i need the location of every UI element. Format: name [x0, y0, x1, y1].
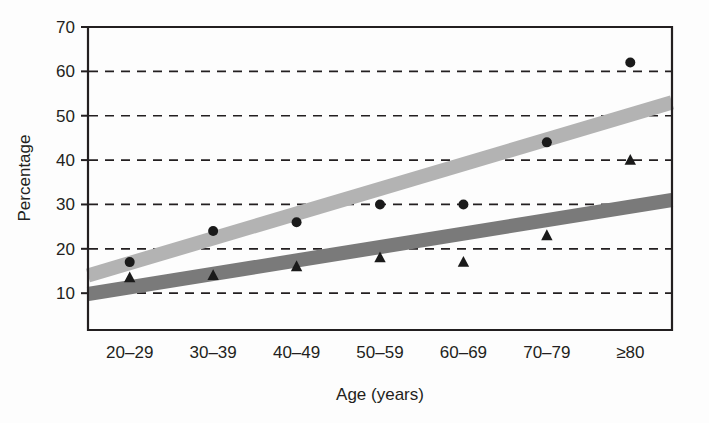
marker-circle-3 — [375, 199, 385, 209]
x-tick-label-6: ≥80 — [616, 343, 644, 362]
marker-circle-2 — [292, 217, 302, 227]
marker-circle-4 — [458, 199, 468, 209]
y-tick-label-40: 40 — [56, 151, 75, 170]
x-tick-label-4: 60–69 — [440, 343, 487, 362]
scatter-chart: 10203040506070 20–2930–3940–4950–5960–69… — [0, 0, 709, 423]
x-tick-label-2: 40–49 — [273, 343, 320, 362]
y-tick-label-50: 50 — [56, 107, 75, 126]
y-tick-label-10: 10 — [56, 284, 75, 303]
y-tick-label-30: 30 — [56, 195, 75, 214]
x-tick-label-5: 70–79 — [523, 343, 570, 362]
x-axis-title: Age (years) — [336, 385, 424, 404]
y-tick-label-60: 60 — [56, 62, 75, 81]
marker-circle-1 — [208, 226, 218, 236]
y-tick-label-70: 70 — [56, 18, 75, 37]
x-tick-label-0: 20–29 — [106, 343, 153, 362]
marker-circle-6 — [625, 57, 635, 67]
chart-page: 10203040506070 20–2930–3940–4950–5960–69… — [0, 0, 709, 423]
y-tick-label-20: 20 — [56, 240, 75, 259]
x-tick-label-3: 50–59 — [356, 343, 403, 362]
y-axis-title: Percentage — [15, 135, 34, 222]
x-tick-label-1: 30–39 — [190, 343, 237, 362]
marker-circle-5 — [542, 137, 552, 147]
marker-circle-0 — [125, 257, 135, 267]
